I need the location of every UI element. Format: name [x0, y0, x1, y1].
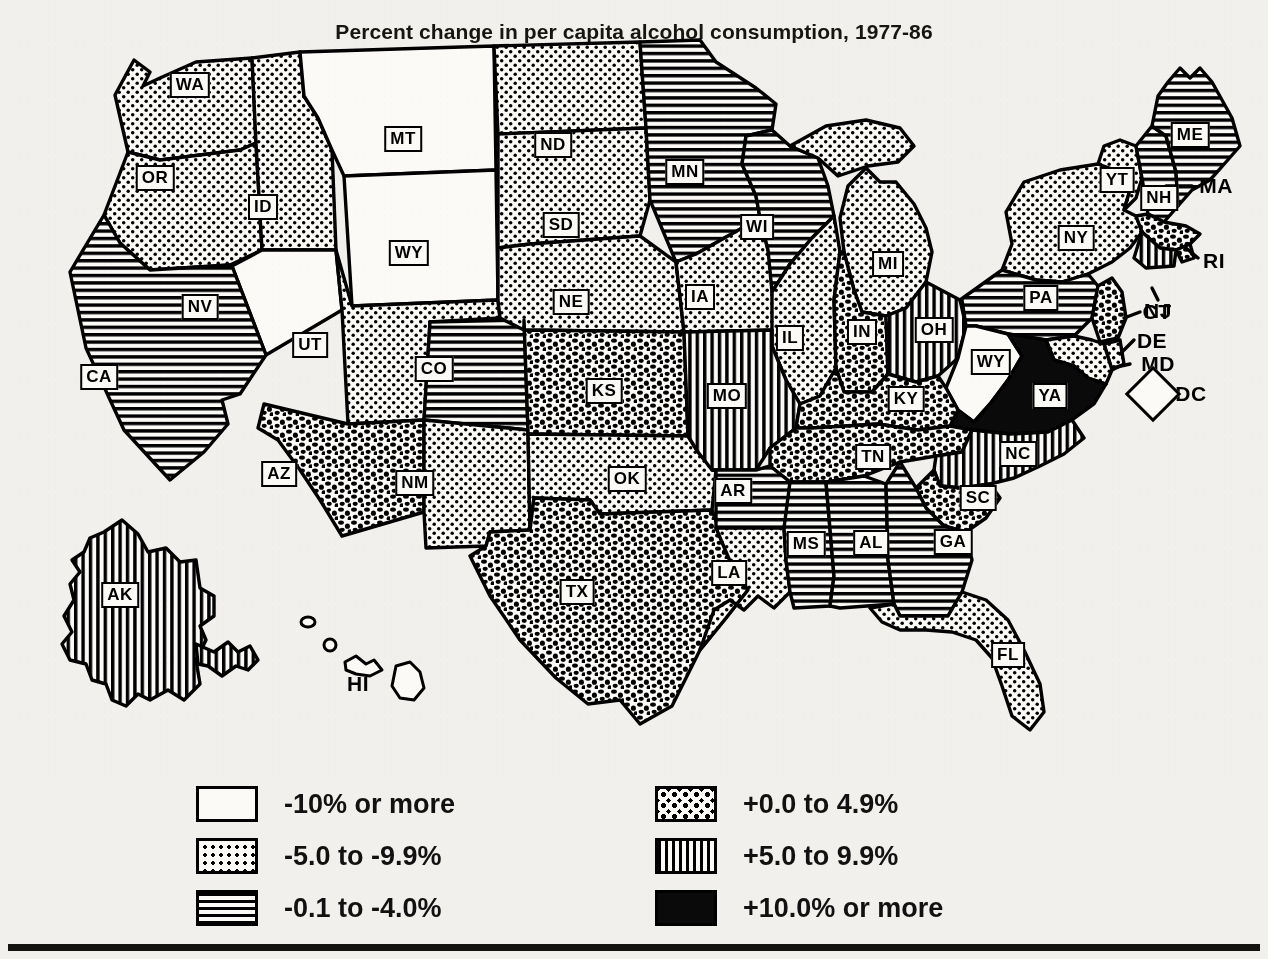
state-NE: [498, 236, 684, 332]
state-label-KY: KY: [888, 386, 925, 412]
state-label-CA: CA: [80, 364, 118, 390]
bottom-rule: [8, 944, 1260, 951]
legend-swatch-white: [196, 786, 258, 822]
legend-item: -10% or more: [196, 778, 455, 830]
legend-column-left: -10% or more -5.0 to -9.9% -0.1 to -4.0%: [196, 778, 455, 934]
state-label-ID: ID: [248, 194, 278, 220]
legend-swatch-solid-black: [655, 890, 717, 926]
state-label-AZ: AZ: [261, 461, 297, 487]
legend-swatch-fine-dots: [196, 838, 258, 874]
state-label-TN: TN: [855, 444, 891, 470]
state-label-VA: YA: [1032, 383, 1067, 409]
legend-label: -5.0 to -9.9%: [284, 841, 442, 872]
legend-column-right: +0.0 to 4.9% +5.0 to 9.9% +10.0% or more: [655, 778, 943, 934]
state-label-ME: ME: [1171, 122, 1210, 148]
state-ND: [494, 42, 646, 134]
legend-item: -0.1 to -4.0%: [196, 882, 455, 934]
legend-item: +0.0 to 4.9%: [655, 778, 943, 830]
state-label-SC: SC: [960, 485, 997, 511]
state-label-OH: OH: [915, 317, 954, 343]
state-label-WA: WA: [170, 72, 210, 98]
state-label-NC: NC: [999, 441, 1037, 467]
legend-label: -0.1 to -4.0%: [284, 893, 442, 924]
state-callout-label-RI: RI: [1203, 249, 1225, 273]
state-label-ND: ND: [534, 132, 572, 158]
state-label-AK: AK: [101, 582, 139, 608]
state-label-NE: NE: [553, 289, 590, 315]
state-NJ: [1092, 278, 1126, 342]
legend-swatch-coarse-dots: [655, 786, 717, 822]
state-label-VT: YT: [1100, 167, 1135, 193]
legend-item: +5.0 to 9.9%: [655, 830, 943, 882]
state-label-NY: NY: [1058, 225, 1095, 251]
state-label-FL: FL: [991, 642, 1025, 668]
state-callout-label-DE: DE: [1137, 329, 1167, 353]
state-label-NM: NM: [395, 470, 434, 496]
legend-label: +0.0 to 4.9%: [743, 789, 898, 820]
legend-item: -5.0 to -9.9%: [196, 830, 455, 882]
state-label-WI: WI: [740, 214, 774, 240]
state-label-AL: AL: [853, 530, 889, 556]
state-TX: [470, 498, 748, 724]
legend-swatch-vertical-lines: [655, 838, 717, 874]
state-label-MT: MT: [384, 126, 422, 152]
state-callout-label-HI: HI: [347, 672, 369, 696]
state-label-MN: MN: [665, 159, 704, 185]
map-svg: [0, 0, 1268, 770]
state-label-PA: PA: [1023, 285, 1058, 311]
state-label-TX: TX: [560, 579, 595, 605]
legend-swatch-horizontal-lines: [196, 890, 258, 926]
state-label-NV: NV: [182, 294, 219, 320]
state-label-IA: IA: [685, 284, 715, 310]
state-callout-label-NJ: NJ: [1144, 299, 1172, 323]
state-label-UT: UT: [292, 332, 328, 358]
state-WY: [344, 170, 498, 306]
state-label-LA: LA: [711, 560, 747, 586]
us-choropleth-map: WAORIDMTNDMNWISDWYNVCAUTCONEIAMIILINOHPA…: [0, 0, 1268, 770]
state-label-KS: KS: [586, 378, 623, 404]
state-callout-label-MA: MA: [1199, 174, 1233, 198]
state-NM: [424, 420, 530, 548]
state-label-MI: MI: [872, 251, 904, 277]
legend-label: +5.0 to 9.9%: [743, 841, 898, 872]
state-label-SD: SD: [543, 212, 580, 238]
state-label-WV: WY: [971, 349, 1011, 375]
state-AK-panhandle: [196, 642, 258, 676]
legend-item: +10.0% or more: [655, 882, 943, 934]
legend-label: -10% or more: [284, 789, 455, 820]
state-label-OK: OK: [608, 466, 647, 492]
state-label-IN: IN: [847, 319, 877, 345]
state-label-CO: CO: [415, 356, 454, 382]
state-label-GA: GA: [934, 529, 973, 555]
state-AK: [62, 520, 214, 706]
state-label-MO: MO: [707, 383, 747, 409]
state-label-IL: IL: [776, 325, 804, 351]
state-label-MS: MS: [787, 531, 826, 557]
legend-label: +10.0% or more: [743, 893, 943, 924]
map-legend: -10% or more -5.0 to -9.9% -0.1 to -4.0%…: [0, 778, 1268, 943]
state-label-AR: AR: [714, 478, 752, 504]
state-label-OR: OR: [136, 165, 175, 191]
state-label-WY: WY: [389, 240, 429, 266]
state-label-NH: NH: [1140, 185, 1178, 211]
